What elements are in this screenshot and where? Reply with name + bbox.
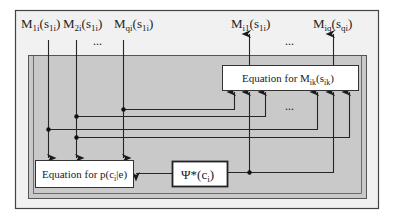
outputs-ellipsis: ...: [285, 34, 294, 48]
equation-p-box: Equation for p(ci|e): [36, 161, 134, 188]
arrows-ellipsis: ...: [285, 99, 294, 113]
equation-m-box: Equation for Mik(sik): [223, 66, 359, 91]
diagram: M1i(s1i) M2i(s1i) ... Mqi(s1i) Mi1(s1i) …: [0, 0, 394, 219]
psi-box: Ψ*(ci): [173, 162, 228, 187]
inputs-ellipsis: ...: [93, 34, 102, 48]
svg-text:Ψ*(ci): Ψ*(ci): [181, 167, 214, 184]
